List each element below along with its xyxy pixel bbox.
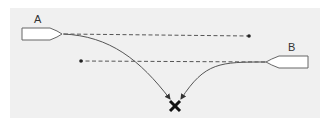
boat-a-label: A (34, 13, 42, 25)
diagram-canvas: A B (0, 0, 331, 130)
collision-x-icon (170, 101, 180, 111)
dashed-path-a (64, 34, 249, 36)
boat-b: B (266, 41, 308, 68)
dashed-path-b (81, 61, 265, 62)
boat-b-label: B (288, 41, 295, 53)
boat-a: A (22, 13, 62, 40)
curved-path-a (63, 34, 170, 99)
curved-path-b (181, 62, 266, 99)
